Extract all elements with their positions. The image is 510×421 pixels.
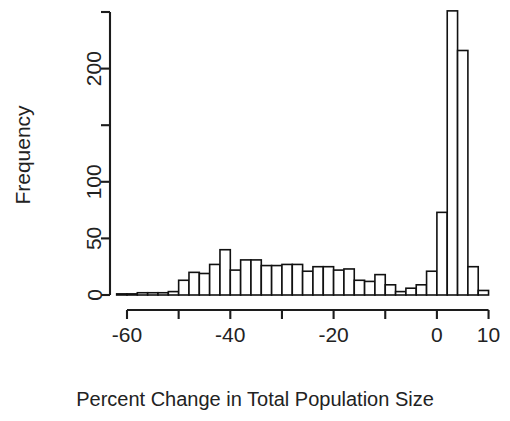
x-axis-tick-label: 10 — [477, 323, 500, 346]
x-axis-tick-label: -40 — [215, 323, 245, 346]
histogram-bar — [117, 294, 127, 295]
histogram-bar — [478, 290, 488, 295]
histogram-bar — [282, 264, 292, 295]
histogram-bar — [199, 273, 209, 295]
histogram-bar — [468, 267, 478, 295]
histogram-figure: Frequency 200100500 -60-40-20010 Percent… — [0, 0, 510, 421]
x-axis-tick-labels: -60-40-20010 — [112, 323, 500, 346]
histogram-bar — [344, 269, 354, 295]
y-axis-tick-labels: 200100500 — [83, 51, 106, 301]
y-axis-tick-label: 50 — [83, 227, 106, 250]
histogram-bar — [437, 212, 447, 295]
histogram-bar — [148, 293, 158, 295]
histogram-bar — [292, 264, 302, 295]
histogram-bar — [251, 260, 261, 295]
x-axis-tick-label: 0 — [431, 323, 443, 346]
histogram-bar — [427, 271, 437, 295]
histogram-bar — [220, 250, 230, 295]
x-axis-tick-label: -20 — [318, 323, 348, 346]
y-axis-tick-label: 200 — [83, 51, 106, 86]
histogram-bar — [210, 264, 220, 295]
histogram-bar — [241, 260, 251, 295]
x-axis-label: Percent Change in Total Population Size — [0, 388, 510, 411]
histogram-bar — [189, 272, 199, 295]
y-axis-tick-label: 100 — [83, 164, 106, 199]
histogram-bar — [230, 270, 240, 295]
histogram-bar — [396, 292, 406, 295]
x-axis — [127, 310, 489, 319]
histogram-bar — [365, 281, 375, 295]
histogram-bar — [158, 293, 168, 295]
histogram-bar — [261, 266, 271, 295]
x-axis-tick-label: -60 — [112, 323, 142, 346]
histogram-bars — [117, 11, 489, 295]
histogram-bar — [458, 50, 468, 295]
histogram-bar — [323, 267, 333, 295]
histogram-bar — [313, 267, 323, 295]
plot-area: 200100500 -60-40-20010 — [0, 0, 510, 380]
histogram-bar — [303, 271, 313, 295]
histogram-bar — [447, 11, 457, 295]
histogram-bar — [127, 294, 137, 295]
histogram-bar — [416, 285, 426, 295]
histogram-bar — [179, 280, 189, 295]
histogram-bar — [406, 288, 416, 295]
histogram-bar — [168, 292, 178, 295]
histogram-bar — [375, 275, 385, 295]
y-axis-tick-label: 0 — [83, 289, 106, 301]
histogram-bar — [385, 285, 395, 295]
histogram-bar — [354, 280, 364, 295]
histogram-bar — [272, 266, 282, 295]
histogram-bar — [334, 270, 344, 295]
histogram-bar — [137, 293, 147, 295]
